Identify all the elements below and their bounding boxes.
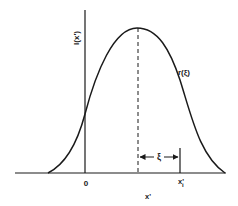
curve-label: r(ξ) bbox=[178, 68, 190, 77]
diagram-canvas: ξ 0 x'i x' r(ξ) I(x') bbox=[0, 0, 238, 206]
x-axis-label: x' bbox=[145, 192, 151, 201]
xi-point-label: x'i bbox=[178, 177, 184, 188]
xi-label: ξ bbox=[157, 152, 161, 162]
diagram-figure: ξ 0 x'i x' r(ξ) I(x') bbox=[0, 0, 238, 206]
origin-label: 0 bbox=[84, 179, 89, 188]
y-axis-label: I(x') bbox=[72, 31, 81, 45]
intensity-curve bbox=[48, 28, 225, 173]
